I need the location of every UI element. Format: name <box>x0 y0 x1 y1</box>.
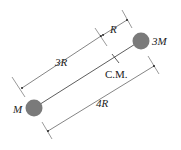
com-diagram: M 3M C.M. 3R R 4R <box>0 0 181 150</box>
label-4r: 4R <box>96 97 109 109</box>
mass-3m <box>133 33 150 50</box>
extension-line-3m-lower <box>148 56 159 74</box>
extension-line-3m-upper <box>122 10 132 28</box>
extension-line-cm-upper <box>95 28 107 46</box>
mass-m <box>26 100 43 117</box>
extension-line-m-lower <box>42 122 52 139</box>
diagram-canvas: M 3M C.M. 3R R 4R <box>0 0 181 150</box>
label-cm: C.M. <box>105 68 128 80</box>
label-3m: 3M <box>151 35 168 47</box>
label-m: M <box>12 103 23 115</box>
label-3r: 3R <box>54 56 68 68</box>
label-r: R <box>109 23 117 35</box>
